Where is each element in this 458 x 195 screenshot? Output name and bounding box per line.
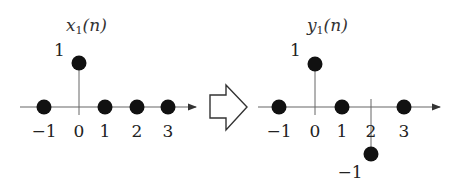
value-label: 1 [54,40,65,60]
tick-label: 1 [337,121,348,141]
value-label-positive: 1 [290,40,301,60]
tick-label: 0 [74,121,85,141]
sample-dot [364,147,379,162]
tick-label: −1 [31,121,56,141]
sample-dot [272,100,287,115]
sample-dot [37,100,52,115]
diagram-canvas: x1(n) 1 −1 0 1 2 3 y1(n) 1 −1 −1 0 1 2 3 [0,0,458,195]
sample-dot [308,57,323,72]
tick-label: 3 [163,121,174,141]
sample-dot [130,100,145,115]
sample-dot [98,100,113,115]
value-label-negative: −1 [337,162,362,182]
tick-label: 1 [100,121,111,141]
hollow-right-arrow-icon [210,85,247,130]
tick-label: 2 [366,121,377,141]
sample-dot [335,100,350,115]
tick-label: 3 [399,121,410,141]
left-plot: x1(n) 1 −1 0 1 2 3 [20,15,196,141]
left-plot-title: x1(n) [66,15,107,37]
tick-label: −1 [266,121,291,141]
tick-label: 2 [132,121,143,141]
right-plot: y1(n) 1 −1 −1 0 1 2 3 [258,15,440,182]
tick-label: 0 [310,121,321,141]
sample-dot [397,100,412,115]
right-plot-title: y1(n) [306,15,348,37]
sample-dot [72,56,87,71]
sample-dot [161,100,176,115]
